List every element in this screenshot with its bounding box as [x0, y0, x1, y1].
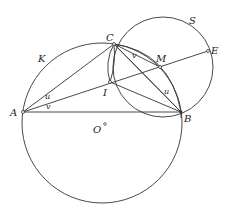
label-o: O: [93, 124, 101, 135]
point-b-marker: [180, 111, 183, 114]
label-s: S: [189, 15, 196, 26]
label-k: K: [37, 53, 46, 64]
geometry-diagram: A B C I M E O K S u v v u: [0, 0, 230, 222]
segment-cm: [114, 44, 181, 112]
label-c: C: [106, 32, 114, 43]
label-a: A: [9, 107, 17, 118]
label-m: M: [155, 53, 167, 64]
point-i-marker: [109, 81, 112, 84]
segment-ib: [110, 82, 181, 112]
circle-k: [22, 43, 182, 203]
point-a-marker: [22, 111, 25, 114]
label-e: E: [210, 45, 219, 56]
angle-v-at-c: v: [132, 51, 137, 60]
angle-v-at-a: v: [46, 102, 51, 111]
angle-u-at-b: u: [164, 87, 169, 96]
point-m-marker: [159, 66, 162, 69]
point-e-marker: [207, 50, 210, 53]
circle-s: [113, 17, 213, 117]
point-o-marker: [104, 123, 107, 126]
angle-u-at-a: u: [45, 92, 50, 101]
segment-cp: [114, 44, 160, 67]
segment-ae: [23, 51, 208, 112]
segment-ac: [23, 44, 114, 112]
label-i: I: [102, 87, 108, 98]
label-b: B: [183, 113, 191, 124]
